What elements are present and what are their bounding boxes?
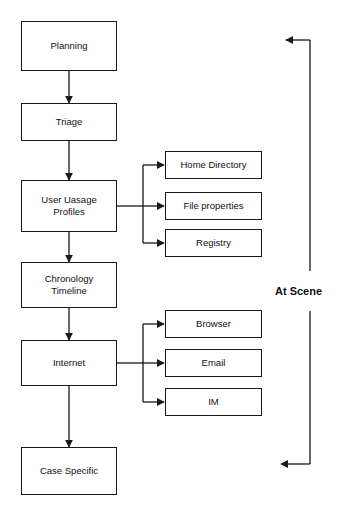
node-case-specific[interactable]: Case Specific <box>21 447 117 495</box>
node-internet-label: Internet <box>50 357 88 369</box>
node-home-directory-label: Home Directory <box>178 159 250 171</box>
node-browser[interactable]: Browser <box>165 310 262 338</box>
at-scene-label: At Scene <box>275 285 322 297</box>
node-email[interactable]: Email <box>165 349 262 377</box>
node-user-usage-profiles[interactable]: User Uasage Profiles <box>21 180 117 232</box>
node-chronology-timeline-label: Chronology Timeline <box>42 273 97 296</box>
node-home-directory[interactable]: Home Directory <box>165 151 262 179</box>
node-triage[interactable]: Triage <box>21 103 117 141</box>
node-file-properties-label: File properties <box>180 200 246 212</box>
node-user-usage-profiles-label: User Uasage Profiles <box>38 194 99 217</box>
node-file-properties[interactable]: File properties <box>165 192 262 220</box>
node-case-specific-label: Case Specific <box>37 465 101 477</box>
node-registry[interactable]: Registry <box>165 229 262 257</box>
node-planning[interactable]: Planning <box>21 21 117 71</box>
node-im-label: IM <box>205 396 222 408</box>
node-im[interactable]: IM <box>165 388 262 416</box>
node-planning-label: Planning <box>48 40 91 52</box>
node-email-label: Email <box>199 357 229 369</box>
node-internet[interactable]: Internet <box>21 340 117 386</box>
node-registry-label: Registry <box>193 237 234 249</box>
flowchart-diagram: Planning Triage User Uasage Profiles Chr… <box>0 0 353 515</box>
node-chronology-timeline[interactable]: Chronology Timeline <box>21 262 117 308</box>
node-browser-label: Browser <box>193 318 234 330</box>
node-triage-label: Triage <box>53 116 86 128</box>
connector-layer <box>0 0 353 515</box>
